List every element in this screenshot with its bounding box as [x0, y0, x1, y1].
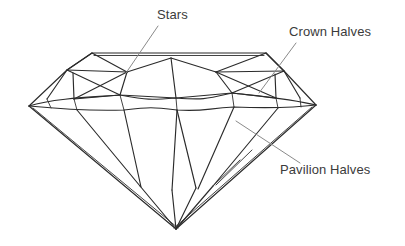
- girdle-lower-line: [29, 105, 316, 111]
- crown-half-right-edge-to-girdle: [284, 71, 300, 98]
- pavilion-halves-group: [140, 150, 252, 229]
- pavilion-main-line-3: [172, 110, 177, 190]
- label-pavilion-halves: Pavilion Halves: [280, 162, 370, 177]
- bezel-line-right-corner: [216, 71, 284, 72]
- pavilion-main-line-4: [177, 110, 196, 188]
- pavilion-left-outline: [29, 106, 176, 229]
- bezel-line-center-down: [171, 58, 176, 98]
- pavilion-main-facets-group: [77, 107, 278, 190]
- pavilion-half-right-aux-2: [216, 150, 252, 185]
- pavilion-half-left-to-culet-a: [140, 186, 176, 229]
- crown-half-left-vertical: [73, 73, 74, 99]
- girdle-group: [29, 93, 316, 111]
- pavilion-main-line-2: [124, 110, 141, 187]
- pavilion-main-line-5: [198, 107, 234, 189]
- star-facet-line-left-inner: [127, 58, 171, 72]
- pavilion-left-outline-inner: [33, 108, 178, 228]
- pavilion-outline-group: [29, 105, 316, 229]
- girdle-left-scallop: [47, 99, 51, 108]
- label-stars: Stars: [157, 7, 188, 22]
- label-crown-halves: Crown Halves: [289, 24, 371, 39]
- girdle-upper-line: [29, 93, 316, 106]
- pavilion-main-line-1: [77, 110, 140, 186]
- girdle-left-scallop-2: [74, 99, 77, 110]
- crown-half-right-vertical: [275, 74, 276, 98]
- girdle-center-right-scallop: [232, 93, 234, 107]
- girdle-right-scallop-2: [300, 98, 301, 107]
- star-facet-line-center-left: [171, 58, 216, 72]
- crown-half-left-edge-to-girdle: [47, 70, 67, 99]
- pavilion-half-right-to-culet-b: [176, 186, 213, 229]
- girdle-right-scallop: [276, 98, 278, 108]
- leader-line-crown-halves: [259, 43, 296, 93]
- girdle-center-left-scallop: [120, 95, 124, 110]
- girdle-center-scallop: [176, 98, 177, 110]
- bezel-facets-group: [67, 58, 284, 98]
- leader-line-stars: [126, 26, 158, 73]
- bezel-line-left-corner: [67, 70, 127, 72]
- diamond-diagram: Stars Crown Halves Pavilion Halves: [0, 0, 405, 246]
